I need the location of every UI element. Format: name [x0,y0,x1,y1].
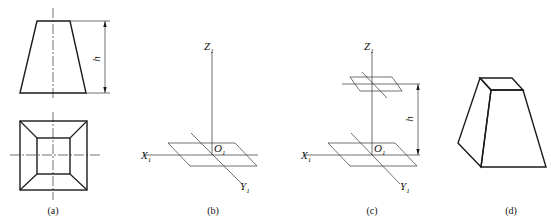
front-view: h [20,8,110,100]
arrow-up-icon [103,21,106,27]
dimension-label-h: h [90,56,102,62]
y-axis [191,133,242,184]
left-face [458,78,491,167]
y-axis-label: Y1 [400,180,410,195]
panel-b: Z1 X1 Y1 O1 (b) [140,40,258,217]
caption-b: (b) [207,205,219,217]
top-view [10,112,102,200]
panel-a: h (a) [10,8,110,217]
z-axis-label: Z1 [364,40,374,55]
front-face [481,90,546,167]
y-axis-label: Y1 [240,180,250,195]
lateral-edge [70,121,87,138]
caption-d: (d) [505,205,517,217]
top-y-line [362,72,387,98]
caption-c: (c) [366,205,377,217]
arrow-up-icon [416,84,419,90]
x-axis-label: X1 [140,149,151,164]
z-axis-label: Z1 [204,40,214,55]
inner-square [37,138,70,174]
top-face [480,78,523,90]
arrow-down-icon [416,149,419,155]
dimension-label-h: h [403,116,415,122]
panel-c: h Z1 X1 Y1 O1 (c) [300,40,420,217]
arrow-down-icon [103,87,106,93]
lateral-edge [20,174,37,190]
frustum-construction-diagram: h (a) Z1 X1 Y1 O1 (b) [0,0,551,224]
panel-d: (d) [458,78,546,217]
lateral-edge [20,121,37,138]
lateral-edge [70,174,87,190]
x-axis-label: X1 [300,149,311,164]
y-axis [351,133,400,184]
base-parallelogram [328,143,417,166]
caption-a: (a) [47,205,58,217]
